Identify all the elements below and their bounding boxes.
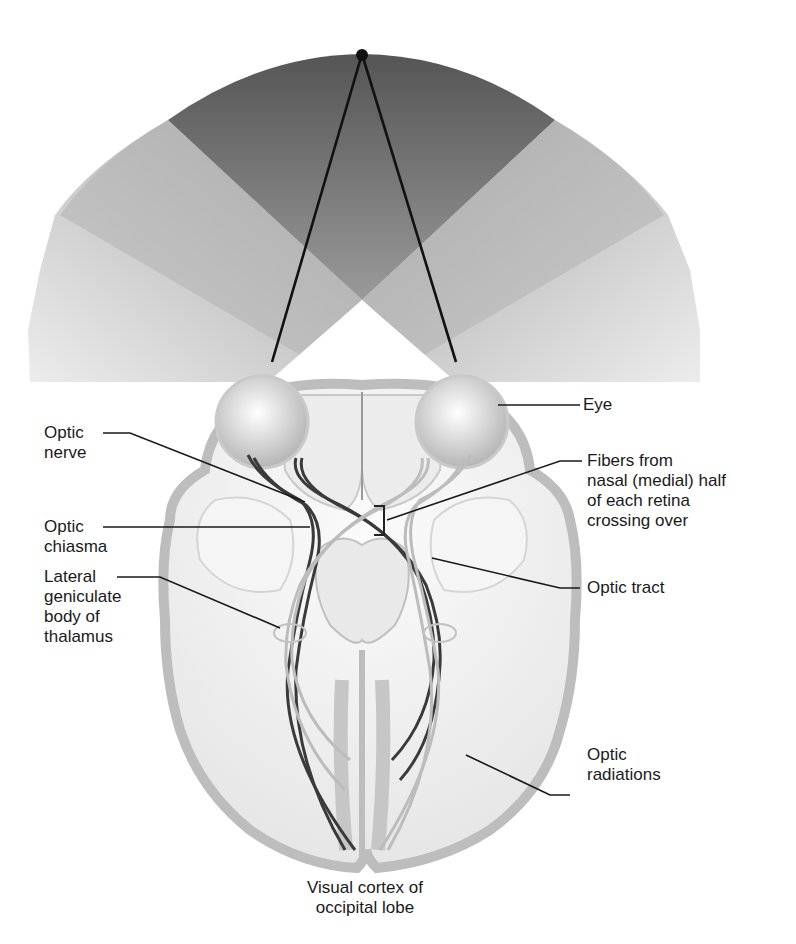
label-optic-radiations: Optic radiations [587, 745, 661, 785]
left-eye [216, 376, 308, 468]
right-eye [416, 376, 508, 468]
label-optic-nerve: Optic nerve [44, 423, 87, 463]
brain [163, 384, 576, 868]
label-lateral-geniculate: Lateral geniculate body of thalamus [44, 567, 122, 647]
label-optic-tract: Optic tract [587, 578, 664, 598]
label-visual-cortex: Visual cortex of occipital lobe [290, 878, 440, 918]
label-eye: Eye [583, 395, 612, 415]
label-optic-chiasma: Optic chiasma [44, 517, 107, 557]
label-fibers-crossing: Fibers from nasal (medial) half of each … [587, 451, 726, 531]
visual-field [10, 54, 700, 382]
fixation-point-icon [356, 49, 368, 61]
